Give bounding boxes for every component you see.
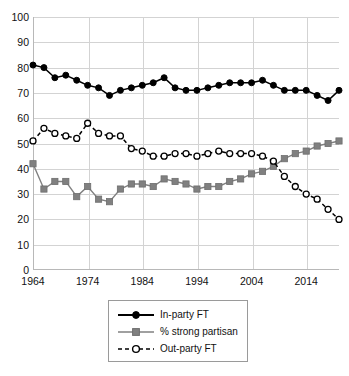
legend-label-in-party-ft: In-party FT bbox=[156, 309, 209, 321]
data-point bbox=[325, 97, 331, 103]
data-point bbox=[183, 87, 189, 93]
data-point bbox=[52, 130, 58, 136]
data-point bbox=[238, 151, 244, 157]
legend-item-out-party-ft: Out-party FT bbox=[109, 340, 247, 357]
data-point bbox=[161, 176, 167, 182]
data-point bbox=[30, 62, 36, 68]
data-point bbox=[248, 171, 254, 177]
data-point bbox=[128, 85, 134, 91]
data-point bbox=[172, 85, 178, 91]
data-point bbox=[150, 153, 156, 159]
data-point bbox=[194, 153, 200, 159]
data-point bbox=[96, 130, 102, 136]
data-point bbox=[292, 87, 298, 93]
data-point bbox=[259, 168, 265, 174]
data-point bbox=[249, 80, 255, 86]
data-point bbox=[205, 183, 211, 189]
legend-label-strong-partisan: % strong partisan bbox=[156, 326, 238, 338]
data-point bbox=[96, 85, 102, 91]
data-point bbox=[216, 148, 222, 154]
data-point bbox=[41, 65, 47, 71]
data-point bbox=[260, 153, 266, 159]
data-point bbox=[183, 181, 189, 187]
series-strong-partisan bbox=[30, 138, 342, 205]
data-point bbox=[205, 151, 211, 157]
data-point bbox=[85, 82, 91, 88]
data-point bbox=[128, 181, 134, 187]
data-point bbox=[30, 161, 36, 167]
data-point bbox=[314, 92, 320, 98]
data-point bbox=[336, 216, 342, 222]
data-point bbox=[150, 183, 156, 189]
data-point bbox=[52, 75, 58, 81]
data-point bbox=[139, 148, 145, 154]
data-point bbox=[238, 176, 244, 182]
data-point bbox=[216, 82, 222, 88]
data-point bbox=[128, 146, 134, 152]
data-point bbox=[63, 72, 69, 78]
data-point bbox=[303, 87, 309, 93]
chart-legend: In-party FT % strong partisan Out-party … bbox=[108, 300, 248, 362]
data-point bbox=[30, 138, 36, 144]
data-point bbox=[281, 156, 287, 162]
data-point bbox=[41, 186, 47, 192]
series-out-party-ft bbox=[30, 120, 342, 222]
data-point bbox=[172, 178, 178, 184]
data-point bbox=[194, 186, 200, 192]
data-point bbox=[85, 120, 91, 126]
data-point bbox=[249, 151, 255, 157]
data-point bbox=[74, 194, 80, 200]
data-point bbox=[85, 183, 91, 189]
data-point bbox=[281, 87, 287, 93]
legend-swatch-strong-partisan bbox=[116, 325, 156, 339]
data-point bbox=[227, 151, 233, 157]
data-point bbox=[139, 181, 145, 187]
data-point bbox=[63, 178, 69, 184]
data-point bbox=[107, 133, 113, 139]
data-point bbox=[292, 184, 298, 190]
data-point bbox=[172, 151, 178, 157]
data-point bbox=[107, 92, 113, 98]
data-point bbox=[227, 178, 233, 184]
data-point bbox=[74, 77, 80, 83]
data-point bbox=[292, 151, 298, 157]
data-point bbox=[117, 87, 123, 93]
data-point bbox=[325, 140, 331, 146]
data-point bbox=[139, 82, 145, 88]
data-point bbox=[161, 153, 167, 159]
data-point bbox=[194, 87, 200, 93]
data-point bbox=[303, 148, 309, 154]
data-point bbox=[260, 77, 266, 83]
data-point bbox=[205, 85, 211, 91]
legend-swatch-out-party-ft bbox=[116, 342, 156, 356]
data-point bbox=[303, 191, 309, 197]
data-point bbox=[183, 151, 189, 157]
data-point bbox=[74, 135, 80, 141]
data-point bbox=[41, 125, 47, 131]
legend-item-strong-partisan: % strong partisan bbox=[109, 323, 247, 340]
legend-item-in-party-ft: In-party FT bbox=[109, 306, 247, 323]
data-point bbox=[216, 183, 222, 189]
data-point bbox=[325, 206, 331, 212]
data-point bbox=[117, 186, 123, 192]
data-point bbox=[281, 173, 287, 179]
data-point bbox=[270, 82, 276, 88]
data-point bbox=[270, 158, 276, 164]
data-point bbox=[63, 133, 69, 139]
data-point bbox=[336, 87, 342, 93]
data-point bbox=[52, 178, 58, 184]
data-point bbox=[150, 80, 156, 86]
data-point bbox=[336, 138, 342, 144]
data-point bbox=[314, 143, 320, 149]
data-point bbox=[161, 75, 167, 81]
data-point bbox=[95, 196, 101, 202]
chart-container: 0102030405060708090100 19641974198419942… bbox=[0, 0, 349, 376]
data-point bbox=[227, 80, 233, 86]
data-point bbox=[117, 133, 123, 139]
data-point bbox=[314, 196, 320, 202]
series-in-party-ft bbox=[30, 62, 342, 103]
legend-label-out-party-ft: Out-party FT bbox=[156, 343, 217, 355]
data-point bbox=[106, 199, 112, 205]
data-point bbox=[238, 80, 244, 86]
legend-swatch-in-party-ft bbox=[116, 308, 156, 322]
